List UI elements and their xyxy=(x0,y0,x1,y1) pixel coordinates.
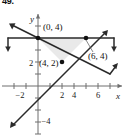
vertex-dot-6-4 xyxy=(84,36,89,41)
x-axis xyxy=(2,83,122,89)
arrow-down-left-icon xyxy=(5,47,11,53)
x-axis-arrow-icon xyxy=(118,84,123,88)
point-label-6-4: (6, 4) xyxy=(88,51,108,61)
y-tick-label-2: 2 xyxy=(29,58,33,68)
y-tick-label-neg4: −4 xyxy=(41,116,51,126)
y-axis xyxy=(35,14,41,134)
graph-figure: 49. xyxy=(0,0,131,140)
arrow-down-right-icon xyxy=(111,47,117,53)
x-axis-label: x xyxy=(115,91,120,101)
point-label-0-4: (0, 4) xyxy=(43,22,63,32)
x-tick-label-neg2: −2 xyxy=(15,90,24,100)
point-label-4-2: (4, 2) xyxy=(39,58,59,68)
x-tick-label-6: 6 xyxy=(96,90,100,100)
x-tick-label-4: 4 xyxy=(72,90,77,100)
x-tick-label-2: 2 xyxy=(60,90,64,100)
vertex-dot-0-4 xyxy=(36,36,41,41)
y-axis-label: y xyxy=(29,14,34,24)
vertex-dot-4-2 xyxy=(60,60,65,65)
coordinate-plane: −2 2 4 6 2 −4 x y (0, 4) (4, 2) (6, 4) xyxy=(0,0,131,140)
y-axis-arrow-icon xyxy=(36,14,40,19)
